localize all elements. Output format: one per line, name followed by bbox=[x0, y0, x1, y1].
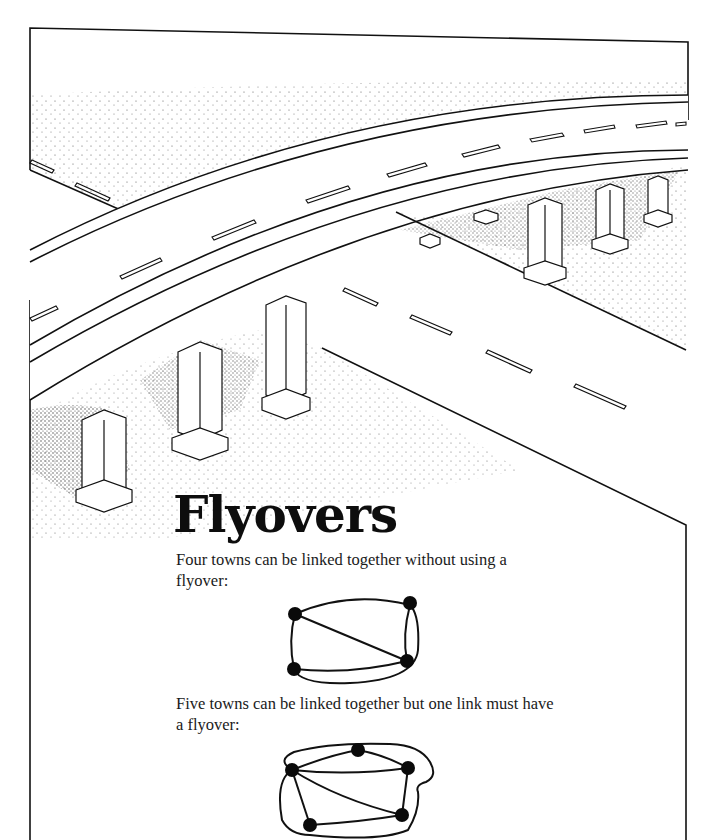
town-node bbox=[303, 818, 317, 832]
town-node bbox=[395, 808, 409, 822]
page-title: Flyovers bbox=[173, 490, 397, 540]
town-node bbox=[287, 662, 301, 676]
town-node bbox=[401, 761, 415, 775]
four-towns-diagram bbox=[280, 595, 420, 690]
town-node bbox=[400, 654, 414, 668]
five-towns-diagram bbox=[270, 740, 440, 840]
paragraph-four-towns: Four towns can be linked together withou… bbox=[176, 549, 556, 591]
town-node bbox=[288, 607, 302, 621]
town-node bbox=[351, 743, 365, 757]
town-node bbox=[285, 763, 299, 777]
town-node bbox=[403, 596, 417, 610]
paragraph-five-towns: Five towns can be linked together but on… bbox=[176, 693, 556, 735]
